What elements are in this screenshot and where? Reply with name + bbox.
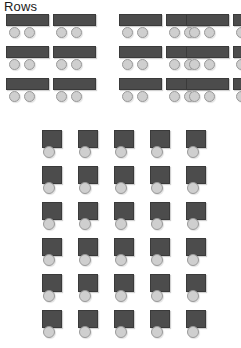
chair-seat-icon[interactable] [182,310,212,340]
chair-backrest-icon [114,130,134,148]
bench-seat-icon[interactable] [53,78,100,104]
chair-cushion-icon [43,290,55,302]
chair-seat-icon[interactable] [110,310,140,340]
chair-cushion-icon [79,146,91,158]
chair-backrest-icon [186,274,206,292]
chair-seat-icon[interactable] [38,274,68,304]
chair-backrest-icon [114,310,134,328]
bench-cushion-right-icon [24,27,35,38]
bench-seat-icon[interactable] [6,14,53,40]
bench-seat-icon[interactable] [53,14,100,40]
chair-seat-icon[interactable] [110,166,140,196]
chair-icon-graphic [182,166,212,196]
bench-seat-icon[interactable] [119,46,166,72]
bench-backrest-icon [186,78,229,90]
bench-seat-icon[interactable] [119,14,166,40]
chair-cushion-icon [151,182,163,194]
chair-icon-graphic [74,166,104,196]
chair-seat-icon[interactable] [110,130,140,160]
chair-icon-graphic [146,166,176,196]
chair-backrest-icon [42,202,62,220]
chair-seat-icon[interactable] [182,130,212,160]
bench-seat-icon[interactable] [233,46,241,72]
bench-cushion-right-icon [204,59,215,70]
bench-cushion-right-icon [204,27,215,38]
chair-seat-icon[interactable] [110,238,140,268]
chair-seat-icon[interactable] [146,310,176,340]
bench-cushion-left-icon [122,59,133,70]
chair-seat-icon[interactable] [74,202,104,232]
chair-icon-graphic [182,274,212,304]
chair-seat-icon[interactable] [182,166,212,196]
bench-seat-icon[interactable] [186,46,233,72]
chair-backrest-icon [42,238,62,256]
chair-seat-icon[interactable] [38,130,68,160]
chair-seat-icon[interactable] [74,238,104,268]
bench-icon-graphic [186,78,233,104]
chair-icon-graphic [110,238,140,268]
chair-backrest-icon [42,274,62,292]
chair-seat-icon[interactable] [146,202,176,232]
page-title: Rows [4,0,37,14]
chair-cushion-icon [187,326,199,338]
chair-backrest-icon [114,274,134,292]
chair-seat-icon[interactable] [182,202,212,232]
bench-seat-icon[interactable] [6,46,53,72]
chair-seat-icon[interactable] [110,202,140,232]
bench-cushion-right-icon [137,59,148,70]
bench-seat-icon[interactable] [6,78,53,104]
chair-icon-graphic [38,130,68,160]
chair-seat-icon[interactable] [74,130,104,160]
chair-seat-icon[interactable] [38,310,68,340]
chair-cushion-icon [79,254,91,266]
bench-seat-icon[interactable] [119,78,166,104]
chair-cushion-icon [43,182,55,194]
chair-icon-graphic [38,166,68,196]
chair-cushion-icon [115,290,127,302]
bench-cushion-left-icon [56,59,67,70]
bench-icon-graphic [53,14,100,40]
bench-backrest-icon [119,78,162,90]
bench-icon-graphic [186,14,233,40]
chair-seat-icon[interactable] [38,202,68,232]
chair-backrest-icon [186,238,206,256]
chair-seat-icon[interactable] [110,274,140,304]
chair-backrest-icon [78,166,98,184]
chair-seat-icon[interactable] [182,274,212,304]
chair-cushion-icon [115,218,127,230]
chair-seat-icon[interactable] [146,166,176,196]
chair-seat-icon[interactable] [146,274,176,304]
chair-seat-icon[interactable] [146,238,176,268]
chair-cushion-icon [79,218,91,230]
chair-seat-icon[interactable] [38,238,68,268]
bench-seat-icon[interactable] [233,14,241,40]
bench-backrest-icon [186,14,229,26]
chair-icon-graphic [110,274,140,304]
bench-cushion-right-icon [24,59,35,70]
chair-icon-graphic [110,202,140,232]
chair-icon-graphic [182,310,212,340]
chair-backrest-icon [150,274,170,292]
bench-seat-icon[interactable] [53,46,100,72]
chair-cushion-icon [151,218,163,230]
chair-seat-icon[interactable] [74,310,104,340]
chair-seat-icon[interactable] [146,130,176,160]
chair-backrest-icon [186,130,206,148]
chair-cushion-icon [79,182,91,194]
bench-seat-icon[interactable] [186,14,233,40]
chair-seat-icon[interactable] [74,166,104,196]
bench-seat-icon[interactable] [186,78,233,104]
bench-backrest-icon [119,14,162,26]
bench-seat-icon[interactable] [233,78,241,104]
chair-backrest-icon [78,310,98,328]
chair-cushion-icon [43,218,55,230]
chair-backrest-icon [150,202,170,220]
chair-backrest-icon [150,166,170,184]
bench-icon-graphic [6,14,53,40]
chair-backrest-icon [114,238,134,256]
bench-cushion-left-icon [122,91,133,102]
chair-seat-icon[interactable] [74,274,104,304]
chair-seat-icon[interactable] [182,238,212,268]
bench-cushion-left-icon [9,59,20,70]
chair-seat-icon[interactable] [38,166,68,196]
